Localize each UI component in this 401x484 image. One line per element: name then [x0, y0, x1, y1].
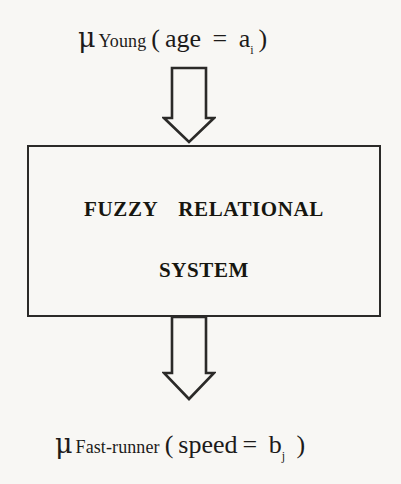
output-close-paren: ) — [285, 430, 305, 459]
output-value-label: b — [264, 430, 282, 459]
fuzzy-relational-system-diagram: μYoung(age = ai) FUZZYRELATIONAL SYSTEM … — [0, 0, 401, 484]
mu-symbol-input: μ — [78, 22, 96, 53]
input-membership-expression: μYoung(age = ai) — [78, 24, 267, 53]
input-value-subscript: i — [250, 43, 253, 57]
box-title-line-1: FUZZYRELATIONAL — [29, 197, 379, 222]
output-membership-expression: μFast-runner(speed= bj ) — [55, 430, 305, 459]
output-open-paren: ( — [160, 430, 174, 459]
output-value-subscript: j — [282, 449, 285, 463]
input-open-paren: ( — [146, 24, 160, 53]
output-equals-sign: = — [238, 430, 264, 459]
input-value-label: a — [234, 24, 251, 53]
box-word-fuzzy: FUZZY — [84, 197, 158, 221]
output-variable-label: speed — [173, 430, 237, 459]
box-word-relational: RELATIONAL — [178, 197, 324, 221]
input-variable-label: age — [160, 24, 201, 53]
mu-symbol-output: μ — [55, 428, 73, 459]
output-arrow-down-icon — [162, 315, 216, 405]
box-title-line-2: SYSTEM — [29, 258, 379, 283]
input-arrow-down-icon — [162, 66, 216, 148]
fuzzy-relational-system-box: FUZZYRELATIONAL SYSTEM — [27, 145, 381, 317]
input-subject-label: Young — [96, 31, 147, 51]
output-subject-label: Fast-runner — [73, 437, 160, 457]
input-close-paren: ) — [254, 24, 268, 53]
input-equals-sign: = — [201, 24, 234, 53]
